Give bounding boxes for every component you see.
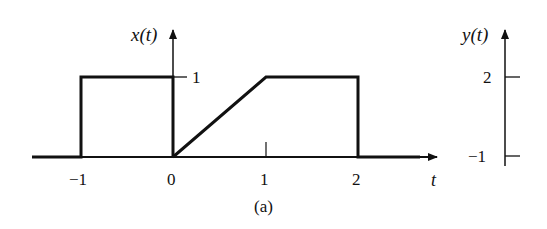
y-tick-label-neg1: −1 bbox=[468, 147, 486, 166]
signal-diagram: x(t) 1 −1 0 1 2 t (a) y(t) 2 −1 bbox=[0, 0, 547, 229]
y-signal-plot: y(t) 2 −1 bbox=[460, 24, 520, 166]
time-label: t bbox=[431, 170, 437, 190]
tick-label-1: 1 bbox=[260, 170, 269, 189]
rect-pulse-waveform bbox=[32, 77, 173, 157]
y-axis-label: y(t) bbox=[460, 24, 488, 46]
figure-caption: (a) bbox=[254, 197, 273, 216]
y-tick-label-2: 2 bbox=[483, 68, 492, 87]
x-axis-label: x(t) bbox=[130, 24, 157, 46]
tick-label-0: 0 bbox=[167, 170, 176, 189]
tick-label-neg1: −1 bbox=[69, 170, 87, 189]
x-signal-plot: x(t) 1 −1 0 1 2 t (a) bbox=[32, 24, 437, 216]
ramp-waveform bbox=[173, 77, 420, 157]
level-1-label: 1 bbox=[192, 68, 201, 87]
tick-label-2: 2 bbox=[352, 170, 361, 189]
